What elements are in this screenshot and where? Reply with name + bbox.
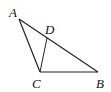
label-d: D xyxy=(44,22,55,37)
segment-ca xyxy=(19,19,40,72)
label-a: A xyxy=(8,5,17,20)
segment-ab xyxy=(19,19,98,72)
label-b: B xyxy=(96,76,104,91)
label-c: C xyxy=(32,76,41,91)
segment-cd xyxy=(40,38,47,72)
triangle-diagram: A D C B xyxy=(0,0,111,92)
